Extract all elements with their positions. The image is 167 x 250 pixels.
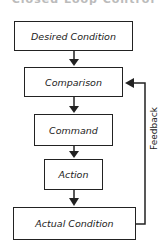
comparison-box: Comparison xyxy=(24,67,123,97)
desired-condition-box: Desired Condition xyxy=(14,21,133,51)
command-box: Command xyxy=(34,114,113,146)
action-box: Action xyxy=(44,159,103,190)
feedback-label: Feedback xyxy=(149,107,159,150)
actual-condition-box: Actual Condition xyxy=(13,207,136,240)
